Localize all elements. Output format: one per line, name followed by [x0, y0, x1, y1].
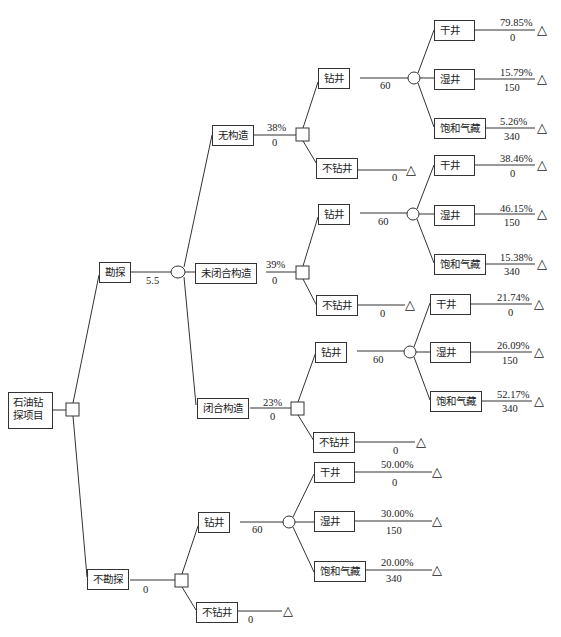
- result-d-dry-value: 0: [392, 477, 397, 489]
- result-c-wet: 湿井: [430, 342, 471, 363]
- branch-no-explore: 不勘探: [87, 569, 129, 590]
- drill-c: 钻井: [315, 342, 347, 363]
- result-a-gas-value: 340: [504, 131, 520, 143]
- no-drill-a: 不钻井: [316, 158, 358, 179]
- terminal-icon: △: [283, 604, 293, 617]
- result-d-dry-prob: 50.00%: [381, 459, 413, 471]
- drill-b-cost: 60: [378, 216, 389, 228]
- drill-a-cost: 60: [380, 80, 391, 92]
- terminal-icon: △: [534, 345, 544, 358]
- terminal-icon: △: [537, 257, 547, 270]
- terminal-icon: △: [534, 297, 544, 310]
- terminal-icon: △: [537, 72, 547, 85]
- outcome-open-structure: 未闭合构造: [195, 263, 257, 284]
- terminal-icon: △: [416, 435, 426, 448]
- result-b-dry-prob: 38.46%: [500, 153, 532, 165]
- outcome-closed-structure-prob: 23%: [263, 397, 282, 409]
- drill-d-cost: 60: [252, 524, 263, 536]
- drill-c-cost: 60: [373, 354, 384, 366]
- terminal-icon: △: [537, 23, 547, 36]
- result-a-wet-value: 150: [504, 82, 520, 94]
- no-drill-b: 不钻井: [316, 295, 358, 316]
- result-d-gas-value: 340: [386, 573, 402, 585]
- tree-connectors: [0, 0, 561, 637]
- outcome-open-structure-prob: 39%: [266, 259, 285, 271]
- terminal-icon: △: [534, 394, 544, 407]
- result-b-wet: 湿井: [434, 205, 475, 226]
- terminal-icon: △: [537, 121, 547, 134]
- result-a-dry-prob: 79.85%: [500, 17, 532, 29]
- no-drill-c-value: 0: [393, 445, 398, 457]
- result-b-dry: 干井: [434, 155, 475, 176]
- branch-explore: 勘探: [99, 262, 131, 283]
- result-a-wet-prob: 15.79%: [500, 67, 532, 79]
- no-drill-b-value: 0: [380, 308, 385, 320]
- result-b-gas: 饱和气藏: [434, 254, 486, 275]
- terminal-icon: △: [537, 158, 547, 171]
- result-c-dry-prob: 21.74%: [497, 292, 529, 304]
- result-d-gas-prob: 20.00%: [381, 557, 413, 569]
- result-c-wet-prob: 26.09%: [497, 340, 529, 352]
- outcome-no-structure-prob: 38%: [267, 122, 286, 134]
- no-drill-c: 不钻井: [313, 432, 355, 453]
- result-b-gas-prob: 15.38%: [500, 252, 532, 264]
- result-d-wet-prob: 30.00%: [381, 508, 413, 520]
- drill-b: 钻井: [318, 204, 350, 225]
- result-b-wet-prob: 46.15%: [500, 203, 532, 215]
- outcome-open-structure-value: 0: [272, 275, 277, 287]
- outcome-no-structure: 无构造: [212, 125, 254, 146]
- drill-a: 钻井: [318, 68, 350, 89]
- result-c-dry-value: 0: [508, 307, 513, 319]
- result-a-wet: 湿井: [434, 69, 475, 90]
- result-a-dry: 干井: [434, 20, 475, 41]
- terminal-icon: △: [432, 514, 442, 527]
- result-d-dry: 干井: [314, 462, 355, 483]
- result-c-wet-value: 150: [502, 355, 518, 367]
- result-b-dry-value: 0: [510, 168, 515, 180]
- root-decision-node: [66, 403, 79, 416]
- root-label-line2: 探项目: [13, 409, 48, 422]
- result-d-gas: 饱和气藏: [314, 561, 366, 582]
- result-b-wet-value: 150: [504, 217, 520, 229]
- terminal-icon: △: [432, 563, 442, 576]
- drill-d: 钻井: [198, 512, 230, 533]
- outcome-closed-structure-value: 0: [270, 411, 275, 423]
- outcome-no-structure-value: 0: [272, 137, 277, 149]
- root-label-line1: 石油钻: [13, 396, 48, 409]
- branch-explore-value: 5.5: [146, 275, 159, 287]
- result-d-wet: 湿井: [314, 511, 355, 532]
- result-a-dry-value: 0: [510, 32, 515, 44]
- no-drill-a-value: 0: [392, 172, 397, 184]
- result-c-gas: 饱和气藏: [430, 391, 482, 412]
- result-b-gas-value: 340: [504, 266, 520, 278]
- no-drill-d: 不钻井: [196, 602, 238, 623]
- result-c-gas-value: 340: [502, 403, 518, 415]
- result-c-dry: 干井: [430, 294, 471, 315]
- result-c-gas-prob: 52.17%: [497, 389, 529, 401]
- explore-chance-node: [171, 266, 185, 278]
- outcome-closed-structure: 闭合构造: [197, 398, 249, 419]
- terminal-icon: △: [406, 163, 416, 176]
- terminal-icon: △: [405, 298, 415, 311]
- result-a-gas-prob: 5.26%: [500, 116, 527, 128]
- terminal-icon: △: [432, 465, 442, 478]
- branch-no-explore-value: 0: [143, 584, 148, 596]
- no-drill-d-value: 0: [248, 614, 253, 626]
- root-node: 石油钻 探项目: [8, 392, 53, 429]
- result-d-wet-value: 150: [386, 525, 402, 537]
- terminal-icon: △: [537, 207, 547, 220]
- result-a-gas: 饱和气藏: [434, 118, 486, 139]
